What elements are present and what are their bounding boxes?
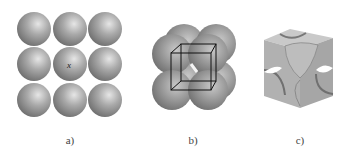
panel-a-label: a): [66, 134, 75, 146]
panel-c-cube: [264, 29, 333, 108]
panel-b-label: b): [188, 134, 197, 146]
svg-text:x: x: [66, 60, 71, 70]
panel-c-label: c): [296, 134, 305, 146]
panel-b-unit-cell: [152, 24, 236, 110]
panel-a-sphere-grid: x: [17, 12, 122, 117]
